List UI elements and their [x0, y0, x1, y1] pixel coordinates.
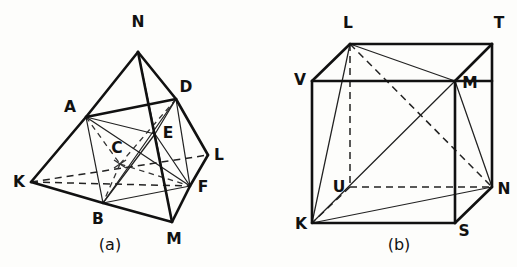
- edge-N-S: [455, 187, 492, 223]
- vertex-label-a-E: E: [163, 124, 174, 142]
- vertex-label-a-C: C: [111, 139, 122, 157]
- edge-K-B: [31, 182, 103, 203]
- vertex-label-b-N: N: [498, 180, 511, 198]
- edge-A-E: [86, 117, 155, 134]
- edge-L-M: [350, 44, 455, 81]
- caption-panel-a: (a): [99, 235, 121, 254]
- vertex-label-b-M: M: [462, 74, 477, 92]
- edge-A-B: [86, 117, 103, 203]
- vertex-label-b-U: U: [333, 178, 346, 196]
- vertex-label-a-M: M: [166, 230, 181, 248]
- edge-K-L: [31, 155, 208, 182]
- panel-b-group: L T V M U N K S (b): [294, 14, 510, 254]
- edge-K-M: [312, 81, 455, 223]
- vertex-label-b-S: S: [458, 222, 469, 240]
- vertex-label-a-K: K: [13, 173, 26, 191]
- edge-M-N: [455, 81, 492, 187]
- vertex-label-b-L: L: [343, 14, 353, 32]
- edge-L-V: [312, 44, 350, 81]
- vertex-label-a-B: B: [92, 210, 104, 228]
- centroid-cross-marker-c: [114, 160, 126, 168]
- edge-A-F: [86, 117, 190, 186]
- vertex-label-b-V: V: [294, 71, 306, 89]
- panel-a-thin-edges: [86, 52, 190, 222]
- edge-B-M: [103, 203, 172, 222]
- vertex-label-a-N: N: [132, 13, 145, 31]
- caption-panel-b: (b): [388, 235, 411, 254]
- vertex-label-a-D: D: [180, 78, 193, 96]
- vertex-label-b-T: T: [494, 14, 505, 32]
- panel-a-group: N A D E C K L B F M (a): [13, 13, 224, 254]
- vertex-label-b-K: K: [295, 215, 308, 233]
- edge-A-K: [31, 117, 86, 182]
- vertex-label-a-F: F: [198, 178, 209, 196]
- geometry-figure-svg: N A D E C K L B F M (a): [0, 0, 517, 267]
- figure-root: N A D E C K L B F M (a): [0, 0, 517, 267]
- vertex-label-a-A: A: [64, 98, 76, 116]
- edge-L-K: [312, 44, 350, 223]
- vertex-label-a-L: L: [214, 146, 224, 164]
- edge-B-F: [103, 186, 190, 203]
- edge-F-M: [172, 186, 190, 222]
